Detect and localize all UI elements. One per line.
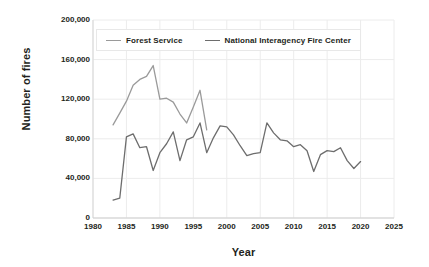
legend-label-forest-service: Forest Service (126, 36, 183, 45)
chart-legend: Forest Service National Interagency Fire… (96, 29, 361, 51)
x-axis-title: Year (93, 246, 394, 258)
legend-item-nifc: National Interagency Fire Center (205, 36, 351, 45)
legend-line-icon-nifc (205, 40, 220, 41)
legend-line-icon-forest-service (106, 40, 121, 41)
legend-item-forest-service: Forest Service (106, 36, 183, 45)
legend-label-nifc: National Interagency Fire Center (225, 36, 351, 45)
fires-line-chart: Number of fires 040,00080,000120,000160,… (0, 0, 429, 267)
